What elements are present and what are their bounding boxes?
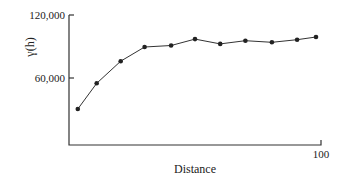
y-axis-label: γ(h) — [23, 37, 37, 57]
data-point — [193, 37, 198, 42]
y-tick-label: 120,000 — [29, 9, 65, 21]
chart-canvas: 60,000120,000100 γ(h) Distance — [0, 0, 348, 186]
y-tick-label: 60,000 — [35, 72, 66, 84]
data-point — [314, 35, 319, 40]
data-point — [94, 81, 99, 86]
axes: 60,000120,000100 — [29, 9, 330, 160]
plot-area — [76, 35, 319, 112]
axis-lines — [69, 15, 321, 145]
data-point — [270, 40, 275, 45]
data-point — [169, 43, 174, 48]
data-point — [118, 59, 123, 64]
data-point — [76, 107, 81, 112]
x-axis-label: Distance — [174, 162, 216, 176]
data-point — [142, 45, 147, 50]
x-tick-label: 100 — [313, 148, 330, 160]
series-line — [78, 37, 316, 109]
data-point — [218, 42, 223, 47]
semivariogram-chart: 60,000120,000100 γ(h) Distance — [0, 0, 348, 186]
data-point — [243, 38, 248, 43]
data-point — [295, 37, 300, 42]
